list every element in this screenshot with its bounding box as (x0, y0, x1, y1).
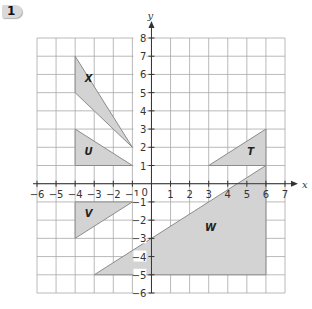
y-tick-label: −3 (132, 233, 147, 244)
y-tick-label: 3 (140, 124, 146, 135)
y-axis-arrow-icon (148, 21, 154, 28)
x-tick-label: −4 (68, 189, 83, 200)
x-tick-label: 4 (225, 189, 231, 200)
x-tick-label: −5 (49, 189, 64, 200)
x-tick-label: 7 (282, 189, 288, 200)
triangle-x (75, 56, 132, 147)
shape-label-t: T (247, 146, 255, 157)
shape-label-w: W (205, 222, 217, 233)
y-tick-label: −4 (132, 252, 147, 263)
x-tick-label: −2 (106, 189, 121, 200)
x-axis-label: x (302, 179, 308, 190)
y-tick-label: 5 (140, 88, 146, 99)
x-tick-label: 3 (206, 189, 212, 200)
y-axis-label: y (146, 10, 153, 21)
y-tick-label: 6 (140, 69, 146, 80)
x-axis-arrow-icon (291, 181, 298, 187)
y-tick-label: 1 (140, 161, 146, 172)
y-tick-label: −1 (132, 197, 147, 208)
x-tick-label: 1 (167, 189, 173, 200)
shape-label-v: V (85, 208, 94, 219)
shape-label-x: X (84, 73, 94, 84)
x-tick-label: −3 (87, 189, 102, 200)
y-tick-label: −2 (132, 215, 147, 226)
y-tick-label: 4 (140, 106, 146, 117)
x-tick-label: 2 (186, 189, 192, 200)
shape-label-u: U (84, 146, 92, 157)
y-tick-label: 8 (140, 33, 146, 44)
y-tick-label: −6 (132, 288, 147, 299)
y-tick-label: 7 (140, 51, 146, 62)
x-tick-label: −6 (30, 189, 45, 200)
y-tick-label: −5 (132, 270, 147, 281)
origin-label: 0 (141, 187, 147, 198)
x-tick-label: 5 (244, 189, 250, 200)
coordinate-grid: XUVTWyx−6−5−4−3−2−1123456787654321−1−2−3… (0, 0, 312, 309)
x-tick-label: 6 (263, 189, 269, 200)
y-tick-label: 2 (140, 142, 146, 153)
